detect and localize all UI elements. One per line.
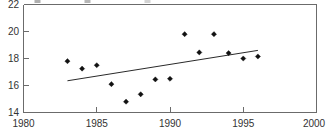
data-point-group (65, 32, 261, 105)
x-tick-label-1985: 1985 (86, 118, 109, 129)
y-axis-ticks (24, 5, 29, 113)
x-tick-label-1995: 1995 (232, 118, 255, 129)
data-point (255, 54, 260, 59)
y-tick-label-14: 14 (8, 107, 20, 118)
x-axis-ticks (24, 107, 317, 113)
scatter-plot: 14 16 18 20 22 1980 1985 1990 1995 2000 (0, 0, 330, 133)
y-tick-label-22: 22 (8, 0, 20, 10)
x-tick-label-1990: 1990 (159, 118, 182, 129)
x-tick-label-1980: 1980 (12, 118, 35, 129)
chart-screenshot: 14 16 18 20 22 1980 1985 1990 1995 2000 (0, 0, 330, 133)
data-point (182, 32, 187, 37)
x-tick-label-2000: 2000 (303, 118, 326, 129)
y-tick-label-18: 18 (8, 53, 20, 64)
y-tick-label-16: 16 (8, 80, 20, 91)
data-point (65, 59, 70, 64)
data-point (167, 76, 172, 81)
y-tick-label-20: 20 (8, 26, 20, 37)
data-point (109, 82, 114, 87)
data-point (241, 56, 246, 61)
data-point (94, 63, 99, 68)
data-point (123, 99, 128, 104)
data-point (138, 92, 143, 97)
y-axis-labels: 14 16 18 20 22 (8, 0, 20, 118)
x-axis-labels: 1980 1985 1990 1995 2000 (12, 118, 325, 129)
data-point (80, 66, 85, 71)
data-point (153, 77, 158, 82)
data-point (197, 50, 202, 55)
data-point (211, 32, 216, 37)
